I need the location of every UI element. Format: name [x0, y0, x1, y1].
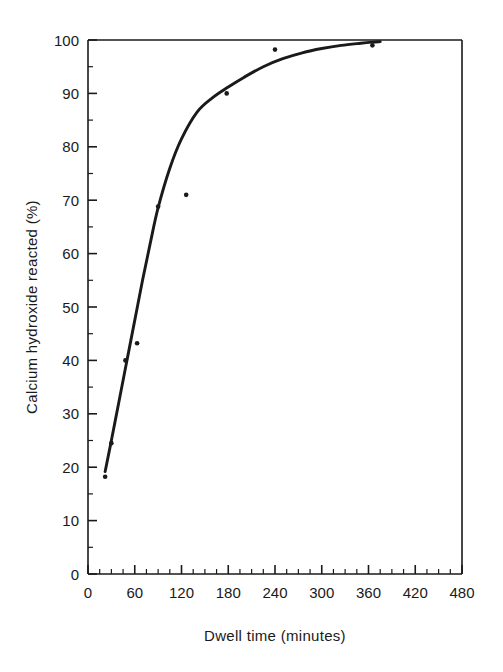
y-tick-label: 20 — [62, 459, 79, 476]
y-tick-label: 60 — [62, 245, 79, 262]
y-tick-label: 80 — [62, 138, 79, 155]
x-tick-label: 0 — [84, 584, 92, 601]
data-point — [123, 358, 128, 363]
x-axis-tick-labels: 060120180240300360420480 — [84, 584, 475, 601]
data-point — [224, 91, 229, 96]
y-tick-label: 100 — [54, 32, 79, 49]
x-tick-label: 60 — [126, 584, 143, 601]
scatter-chart: 0102030405060708090100 06012018024030036… — [0, 0, 503, 672]
x-tick-label: 180 — [216, 584, 241, 601]
data-point — [273, 47, 278, 52]
data-point — [156, 204, 161, 209]
y-tick-label: 30 — [62, 405, 79, 422]
data-point — [135, 341, 140, 346]
y-tick-label: 50 — [62, 299, 79, 316]
x-tick-label: 120 — [169, 584, 194, 601]
y-axis-title: Calcium hydroxide reacted (%) — [23, 200, 40, 414]
y-tick-label: 70 — [62, 192, 79, 209]
x-tick-label: 480 — [449, 584, 474, 601]
y-tick-label: 90 — [62, 85, 79, 102]
chart-figure: 0102030405060708090100 06012018024030036… — [0, 0, 503, 672]
x-tick-label: 360 — [356, 584, 381, 601]
y-tick-label: 10 — [62, 512, 79, 529]
data-point — [109, 441, 114, 446]
x-tick-label: 240 — [262, 584, 287, 601]
x-tick-label: 300 — [309, 584, 334, 601]
data-point — [103, 475, 108, 480]
x-tick-label: 420 — [403, 584, 428, 601]
y-tick-label: 0 — [71, 566, 79, 583]
x-axis-title: Dwell time (minutes) — [204, 627, 346, 644]
y-tick-label: 40 — [62, 352, 79, 369]
data-point — [184, 193, 189, 198]
data-point — [370, 43, 375, 48]
